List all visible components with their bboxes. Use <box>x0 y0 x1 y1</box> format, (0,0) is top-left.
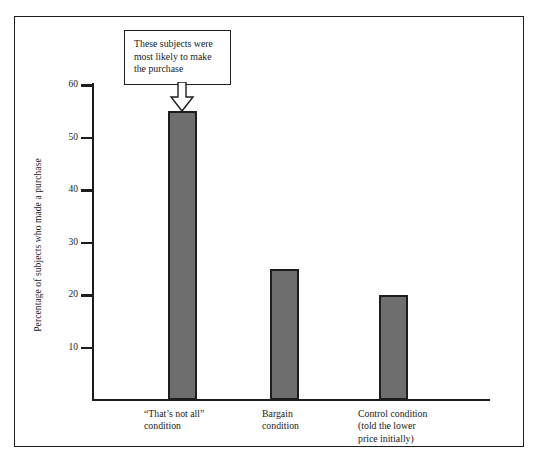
y-axis-title: Percentage of subjects who made a purcha… <box>33 145 43 345</box>
x-category-label-3-line-1: Control condition <box>358 408 468 420</box>
annotation-line-2: most likely to make <box>134 51 222 64</box>
y-tick-label-30: 30 <box>54 238 78 248</box>
y-tick-mark-20 <box>81 294 94 297</box>
plot-area: 60 50 40 30 20 10 Percentage of subjects… <box>0 0 538 464</box>
y-tick-mark-60 <box>81 84 94 87</box>
x-category-label-1-line-2: condition <box>144 420 239 432</box>
y-tick-label-60: 60 <box>54 80 78 90</box>
annotation-callout-box: These subjects were most likely to make … <box>124 30 231 85</box>
x-category-label-2: Bargain condition <box>262 408 357 433</box>
y-tick-label-10: 10 <box>54 343 78 353</box>
y-tick-mark-40 <box>81 189 94 192</box>
annotation-down-arrow-icon <box>169 82 195 113</box>
y-tick-mark-50 <box>81 137 94 140</box>
annotation-line-3: the purchase <box>134 63 222 76</box>
y-tick-mark-30 <box>81 242 94 245</box>
y-tick-mark-10 <box>81 347 94 350</box>
x-category-label-3-line-2: (told the lower <box>358 420 468 432</box>
x-category-label-3: Control condition (told the lower price … <box>358 408 468 445</box>
annotation-line-1: These subjects were <box>134 38 222 51</box>
bar-control-condition <box>379 295 408 400</box>
bar-bargain-condition <box>270 269 299 400</box>
y-tick-label-50: 50 <box>54 133 78 143</box>
x-category-label-2-line-1: Bargain <box>262 408 357 420</box>
bar-thats-not-all-condition <box>168 111 197 400</box>
x-category-label-2-line-2: condition <box>262 420 357 432</box>
y-tick-label-20: 20 <box>54 290 78 300</box>
bar-chart-figure: 60 50 40 30 20 10 Percentage of subjects… <box>0 0 538 464</box>
x-category-label-3-line-3: price initially) <box>358 433 468 445</box>
x-category-label-1-line-1: “That’s not all” <box>144 408 239 420</box>
y-tick-label-40: 40 <box>54 185 78 195</box>
x-category-label-1: “That’s not all” condition <box>144 408 239 433</box>
